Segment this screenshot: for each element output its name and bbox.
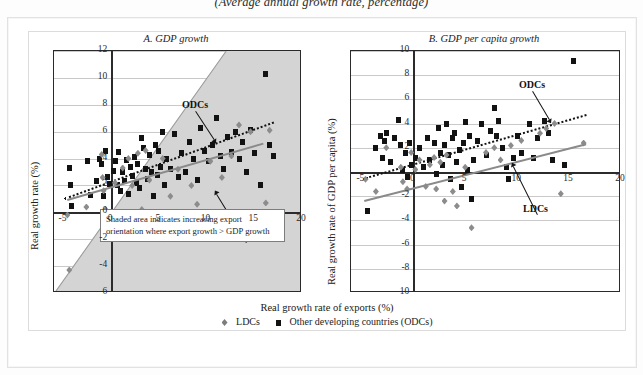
data-point-odc <box>388 159 393 165</box>
y-tick-label: -10 <box>392 286 409 296</box>
data-point-odc <box>267 142 272 148</box>
data-point-odc <box>160 129 165 135</box>
x-tick-label: 5 <box>148 213 168 223</box>
odcs-callout-label: ODCs <box>519 79 545 90</box>
y-tick-label: 8 <box>392 68 409 78</box>
y-tick-label: -8 <box>392 262 409 272</box>
data-point-odc <box>237 156 242 162</box>
data-point-odc <box>214 115 219 121</box>
data-point-odc <box>454 159 459 165</box>
data-point-ldc <box>83 204 89 211</box>
data-point-odc <box>436 125 441 131</box>
data-point-odc <box>425 135 430 141</box>
data-point-odc <box>500 145 505 151</box>
panel-a: A. GDP growth ODCsLDCsShaded area indica… <box>53 50 299 290</box>
x-tick-label: 0 <box>402 173 422 183</box>
data-point-odc <box>147 152 152 158</box>
data-point-odc <box>113 158 118 164</box>
y-axis-label: Real growth rate (%) <box>29 162 40 250</box>
data-point-odc <box>68 182 73 188</box>
x-tick-label: 10 <box>196 213 216 223</box>
gridline-horizontal <box>351 124 619 125</box>
data-point-odc <box>442 142 447 148</box>
data-point-ldc <box>442 198 448 205</box>
data-point-odc <box>116 149 121 155</box>
data-point-ldc <box>373 188 379 195</box>
y-tick-label: 6 <box>90 125 107 135</box>
gridline-horizontal <box>351 99 619 100</box>
data-point-odc <box>128 164 133 170</box>
data-point-odc <box>496 118 501 124</box>
x-tick-label: 15 <box>558 173 578 183</box>
x-axis-line <box>351 172 619 174</box>
data-point-odc <box>494 133 499 139</box>
y-tick-label: -6 <box>90 286 107 296</box>
data-point-ldc <box>383 144 389 151</box>
data-point-odc <box>176 174 181 180</box>
y-tick-label: 8 <box>90 98 107 108</box>
data-point-odc <box>162 182 167 188</box>
data-point-odc <box>137 185 142 191</box>
y-tick-label: 12 <box>90 44 107 54</box>
panel-b-plot-area: ODCsLDCs <box>350 50 620 292</box>
data-point-odc <box>467 133 472 139</box>
y-tick-label: 6 <box>392 92 409 102</box>
data-point-ldc <box>454 202 460 209</box>
data-point-odc <box>135 161 140 167</box>
data-point-odc <box>240 139 245 145</box>
data-point-odc <box>434 171 439 177</box>
y-tick-label: 2 <box>392 141 409 151</box>
data-point-odc <box>562 162 567 168</box>
data-point-ldc <box>498 156 504 163</box>
square-icon <box>276 320 281 326</box>
data-point-odc <box>459 184 464 190</box>
data-point-odc <box>263 71 268 77</box>
data-point-odc <box>67 165 72 171</box>
figure-inner-frame: A. GDP growth ODCsLDCsShaded area indica… <box>28 31 626 331</box>
data-point-odc <box>384 130 389 136</box>
data-point-odc <box>99 161 104 167</box>
gridline-horizontal <box>351 269 619 270</box>
data-point-odc <box>471 157 476 163</box>
legend-label-odcs: Other developing countries (ODCs) <box>289 316 432 327</box>
data-point-odc <box>380 155 385 161</box>
y-tick-label: 2 <box>90 178 107 188</box>
data-point-odc <box>198 125 203 131</box>
data-point-odc <box>183 169 188 175</box>
data-point-odc <box>444 121 449 127</box>
gridline-horizontal <box>351 51 619 52</box>
data-point-odc <box>191 156 196 162</box>
gridline-horizontal <box>351 220 619 221</box>
data-point-odc <box>85 158 90 164</box>
data-point-odc <box>258 182 263 188</box>
x-tick-label: 5 <box>454 173 474 183</box>
data-point-odc <box>519 150 524 156</box>
data-point-odc <box>139 135 144 141</box>
y-tick-label: -4 <box>90 259 107 269</box>
x-tick-label: -5 <box>53 213 73 223</box>
y-axis-label: Real growth rate of GDP per capita (%) <box>326 118 337 285</box>
data-point-odc <box>550 157 555 163</box>
data-point-odc <box>195 177 200 183</box>
arrow-shaft <box>532 91 550 120</box>
x-tick-label: 20 <box>291 213 311 223</box>
data-point-odc <box>492 105 497 111</box>
data-point-ldc <box>433 185 439 192</box>
legend-label-ldcs: LDCs <box>236 316 260 327</box>
y-tick-label: -2 <box>90 232 107 242</box>
data-point-odc <box>461 140 466 146</box>
data-point-odc <box>463 119 468 125</box>
panel-b: B. GDP per capita growth ODCsLDCs -10-8-… <box>350 50 618 290</box>
data-point-odc <box>126 191 131 197</box>
gridline-horizontal <box>351 196 619 197</box>
data-point-odc <box>469 196 474 202</box>
data-point-odc <box>488 128 493 134</box>
y-tick-label: 4 <box>392 117 409 127</box>
y-tick-label: 10 <box>392 44 409 54</box>
x-tick-label: 10 <box>506 173 526 183</box>
x-tick-label: 0 <box>100 213 120 223</box>
data-point-odc <box>111 168 116 174</box>
figure-root: (Average annual growth rate, percentage)… <box>0 0 643 375</box>
data-point-odc <box>151 193 156 199</box>
data-point-ldc <box>450 188 456 195</box>
